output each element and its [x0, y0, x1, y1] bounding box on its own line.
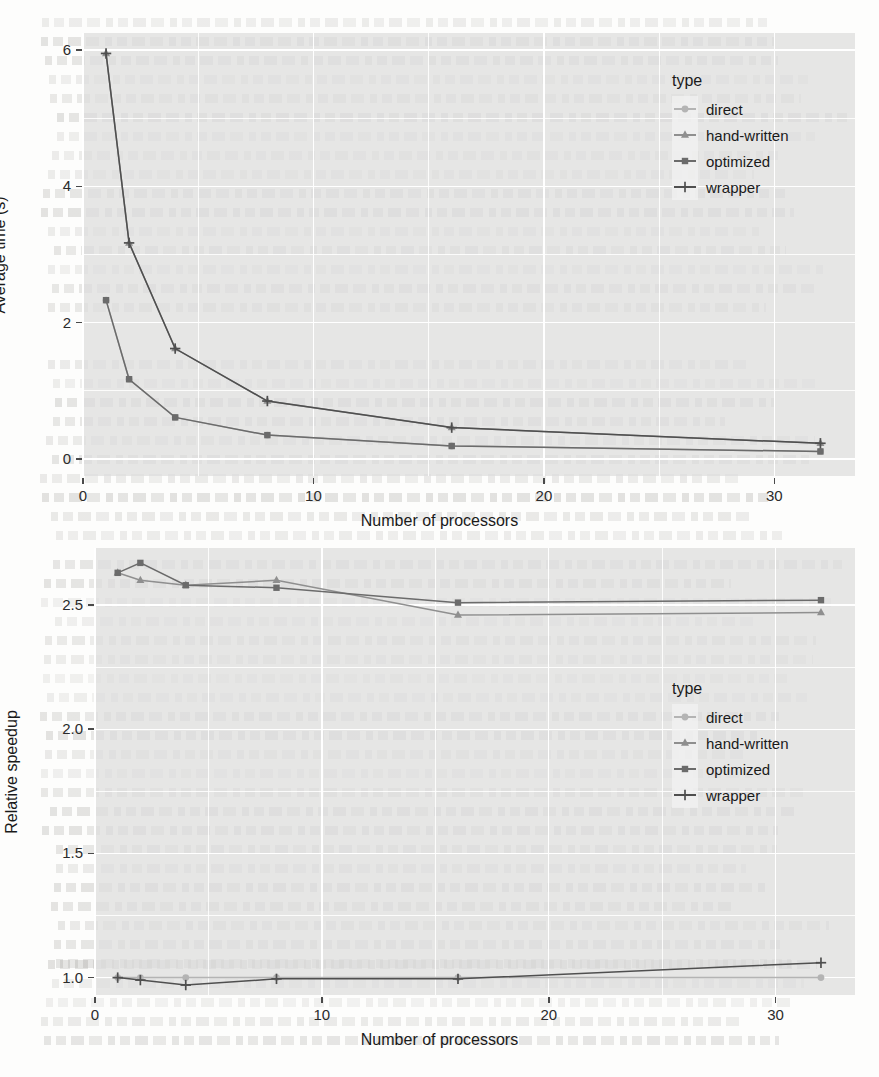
y-tick-mark: [88, 977, 94, 979]
x-tick-mark: [313, 478, 315, 484]
x-tick-mark: [82, 478, 84, 484]
y-tick-label: 2: [31, 314, 71, 331]
legend-key-triangle-icon: [672, 122, 698, 148]
x-tick-mark: [543, 478, 545, 484]
y-tick-mark: [88, 853, 94, 855]
series-hand-written: [114, 568, 825, 618]
x-tick-label: 30: [751, 1006, 801, 1023]
x-tick-label: 0: [70, 1006, 120, 1023]
y-tick-label: 1.5: [43, 844, 83, 861]
chart-relative-speedup: 1.01.52.02.50102030Number of processorsR…: [0, 520, 879, 1077]
legend: typedirecthand-writtenoptimizedwrapper: [672, 72, 789, 200]
legend-item-wrapper[interactable]: wrapper: [672, 782, 789, 808]
x-tick-label: 20: [519, 487, 569, 504]
legend-label: wrapper: [706, 179, 760, 196]
legend-item-optimized[interactable]: optimized: [672, 148, 789, 174]
legend-key-circle-icon: [672, 704, 698, 730]
legend-item-wrapper[interactable]: wrapper: [672, 174, 789, 200]
legend-title: type: [672, 72, 789, 90]
legend-key-plus-icon: [672, 782, 698, 808]
x-tick-label: 30: [749, 487, 799, 504]
x-tick-mark: [775, 997, 777, 1003]
legend-label: hand-written: [706, 127, 789, 144]
y-tick-mark: [76, 458, 82, 460]
legend-item-direct[interactable]: direct: [672, 96, 789, 122]
y-tick-mark: [76, 322, 82, 324]
x-tick-label: 20: [524, 1006, 574, 1023]
series-optimized: [103, 297, 824, 455]
y-tick-label: 4: [31, 177, 71, 194]
legend-item-hand-written[interactable]: hand-written: [672, 730, 789, 756]
y-tick-mark: [88, 728, 94, 730]
legend-key-circle-icon: [672, 96, 698, 122]
x-tick-mark: [774, 478, 776, 484]
legend-label: wrapper: [706, 787, 760, 804]
legend-item-hand-written[interactable]: hand-written: [672, 122, 789, 148]
legend-label: hand-written: [706, 735, 789, 752]
legend-label: optimized: [706, 153, 770, 170]
legend: typedirecthand-writtenoptimizedwrapper: [672, 680, 789, 808]
legend-key-triangle-icon: [672, 730, 698, 756]
x-tick-label: 10: [288, 487, 338, 504]
x-tick-mark: [94, 997, 96, 1003]
y-axis-title: Average time (s): [0, 196, 9, 313]
legend-key-plus-icon: [672, 174, 698, 200]
legend-key-square-icon: [672, 756, 698, 782]
y-tick-label: 0: [31, 450, 71, 467]
legend-item-direct[interactable]: direct: [672, 704, 789, 730]
series-wrapper: [112, 958, 826, 991]
y-tick-label: 1.0: [43, 969, 83, 986]
legend-label: direct: [706, 101, 743, 118]
chart-average-time: 02460102030Number of processorsAverage t…: [0, 0, 879, 520]
legend-title: type: [672, 680, 789, 698]
x-tick-mark: [548, 997, 550, 1003]
y-tick-label: 6: [31, 41, 71, 58]
y-tick-label: 2.5: [43, 596, 83, 613]
x-tick-label: 0: [58, 487, 108, 504]
y-tick-mark: [76, 186, 82, 188]
y-tick-mark: [76, 49, 82, 51]
legend-key-square-icon: [672, 148, 698, 174]
legend-item-optimized[interactable]: optimized: [672, 756, 789, 782]
legend-label: optimized: [706, 761, 770, 778]
y-axis-title: Relative speedup: [3, 710, 21, 834]
y-tick-mark: [88, 604, 94, 606]
x-axis-title: Number of processors: [0, 1031, 879, 1049]
x-tick-mark: [321, 997, 323, 1003]
series-direct: [103, 297, 824, 455]
y-tick-label: 2.0: [43, 720, 83, 737]
legend-label: direct: [706, 709, 743, 726]
x-tick-label: 10: [297, 1006, 347, 1023]
